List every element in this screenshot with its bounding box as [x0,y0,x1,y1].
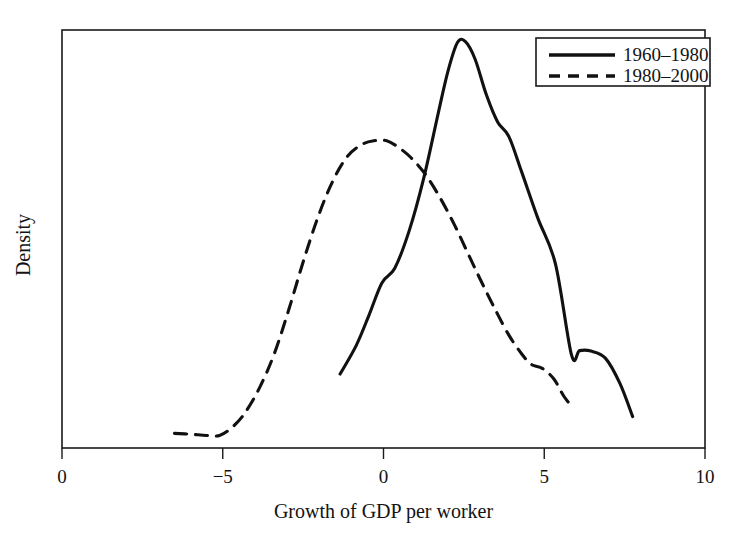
series-line-1980-2000 [175,140,572,436]
x-tick-label-3: 5 [540,466,550,487]
legend: 1960–1980 1980–2000 [536,38,710,86]
x-axis-tick-labels: 0 −5 0 5 10 [57,466,714,487]
legend-label-1: 1980–2000 [623,65,709,86]
y-axis-title: Density [12,214,35,276]
plot-frame [62,30,705,448]
legend-label-0: 1960–1980 [623,44,709,65]
x-tick-label-0: 0 [57,466,67,487]
x-tick-label-1: −5 [213,466,233,487]
x-tick-label-4: 10 [696,466,715,487]
density-chart-figure: 0 −5 0 5 10 Growth of GDP per worker Den… [0,0,755,537]
x-axis-ticks [62,448,705,459]
chart-canvas: 0 −5 0 5 10 Growth of GDP per worker Den… [0,0,755,537]
x-axis-title: Growth of GDP per worker [274,500,494,523]
x-tick-label-2: 0 [379,466,389,487]
series-line-1960-1980 [340,39,633,416]
